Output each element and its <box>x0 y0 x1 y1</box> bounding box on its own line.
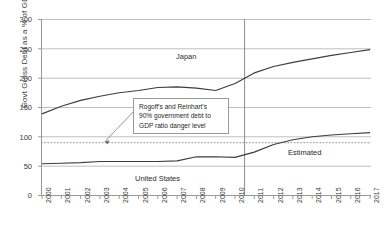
annotation-line-1: Rogoff's and Reinhart's <box>139 102 224 111</box>
x-axis-tick-label: 2017 <box>373 187 380 203</box>
annotation-leader-line <box>105 110 135 145</box>
x-axis-tick-label: 2001 <box>64 187 71 203</box>
annotation-line-3: GDP ratio danger level <box>139 121 224 130</box>
x-axis-tick-label: 2003 <box>103 187 110 203</box>
x-axis-tick-label: 2009 <box>219 187 226 203</box>
annotation-line-2: 90% government debt to <box>139 111 224 120</box>
x-axis-tick-label: 2012 <box>277 187 284 203</box>
y-axis-tick-label: 100 <box>6 133 32 142</box>
gridlines <box>41 20 371 167</box>
x-axis-tick-label: 2002 <box>84 187 91 203</box>
x-axis-tick-label: 2005 <box>142 187 149 203</box>
estimated-region-label: Estimated <box>288 148 321 157</box>
x-axis-tick-label: 2015 <box>335 187 342 203</box>
x-axis-tick-label: 2000 <box>45 187 52 203</box>
x-axis-tick-label: 2010 <box>238 187 245 203</box>
rogoff-reinhart-annotation: Rogoff's and Reinhart's 90% government d… <box>133 98 229 134</box>
x-axis-tick-label: 2004 <box>122 187 129 203</box>
x-axis-tick-label: 2011 <box>257 188 264 203</box>
y-axis-ticks <box>38 20 41 196</box>
x-axis-tick-label: 2013 <box>296 187 303 203</box>
y-axis-tick-label: 250 <box>6 45 32 54</box>
y-axis-tick-label: 150 <box>6 103 32 112</box>
united-states-series-label: United States <box>135 174 180 183</box>
y-axis-tick-label: 50 <box>6 162 32 171</box>
x-axis-tick-label: 2016 <box>354 187 361 203</box>
x-axis-tick-label: 2006 <box>161 187 168 203</box>
x-axis-tick-label: 2007 <box>180 187 187 203</box>
y-axis-tick-label: 300 <box>6 15 32 24</box>
y-axis-tick-label: 200 <box>6 74 32 83</box>
chart-container: Govt Gross Debt as a % of GDP <box>0 0 384 237</box>
y-axis-tick-label: 0 <box>6 191 32 200</box>
x-axis-tick-label: 2014 <box>315 187 322 203</box>
japan-series-label: Japan <box>176 52 196 61</box>
x-axis-tick-label: 2008 <box>199 187 206 203</box>
